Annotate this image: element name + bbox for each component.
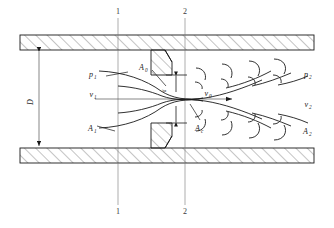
orifice-diameter-label: d: [161, 89, 167, 92]
pipe-lower-wall: [20, 148, 314, 163]
label-p1-sub: 1: [94, 74, 97, 80]
section-1-bottom-label: 1: [116, 207, 120, 216]
label-v1: v 1: [89, 90, 97, 100]
streamlines-lower: [99, 99, 262, 128]
label-v1-sub: 1: [94, 94, 97, 100]
label-v0-base: v: [204, 89, 208, 98]
label-p2-base: p: [303, 70, 308, 79]
label-Ac-sub: c: [201, 128, 204, 134]
orifice-plate-upper: [151, 50, 172, 75]
label-A1-base: A: [87, 124, 93, 133]
label-p1-base: p: [88, 70, 93, 79]
label-A2-base: A: [302, 127, 308, 136]
section-1-top-label: 1: [116, 7, 120, 16]
diagram-canvas: D 1 1 2 2 d: [0, 0, 334, 228]
section-2-top-label: 2: [183, 7, 187, 16]
label-Ac: A c: [194, 124, 204, 134]
label-A0-sub: 0: [145, 67, 148, 73]
label-v2-sub: 2: [309, 104, 312, 110]
label-v2-base: v: [304, 100, 308, 109]
label-A0-base: A: [138, 63, 144, 72]
label-p2: p 2: [303, 70, 312, 80]
pipe-diameter-dimension: D: [26, 52, 39, 146]
label-A1-sub: 1: [94, 128, 97, 134]
label-A1: A 1: [87, 124, 97, 134]
label-v1-base: v: [89, 90, 93, 99]
label-A2: A 2: [302, 127, 312, 137]
label-p1: p 1: [88, 70, 97, 80]
pipe-diameter-label: D: [26, 99, 35, 106]
label-v0-sub: 0: [209, 93, 212, 99]
orifice-flow-diagram: D 1 1 2 2 d: [0, 0, 334, 228]
label-A0: A 0: [138, 63, 148, 73]
section-2-bottom-label: 2: [183, 207, 187, 216]
label-A2-sub: 2: [309, 131, 312, 137]
label-v2: v 2: [304, 100, 312, 110]
orifice-plate-lower: [151, 123, 172, 148]
label-v0: v 0: [204, 89, 212, 99]
label-p2-sub: 2: [309, 74, 312, 80]
label-Ac-base: A: [194, 124, 200, 133]
pipe-upper-wall: [20, 35, 314, 50]
